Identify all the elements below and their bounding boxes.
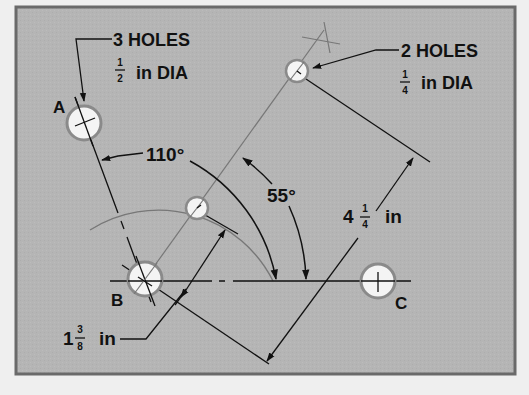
small-holes-size: in DIA xyxy=(421,73,473,93)
point-label-b: B xyxy=(111,291,123,310)
long-dim-whole: 4 xyxy=(343,206,354,227)
angle-label-55: 55° xyxy=(267,185,296,206)
small-holes-count: 2 HOLES xyxy=(401,41,478,61)
long-dim-frac-den: 4 xyxy=(362,219,368,230)
drawing-canvas: 3 HOLES 1 2 in DIA 2 HOLES 1 4 in DIA A … xyxy=(0,0,529,395)
long-dim-unit: in xyxy=(385,206,402,227)
long-dim-frac-num: 1 xyxy=(362,203,368,214)
short-dim-unit: in xyxy=(99,328,116,349)
small-holes-frac-den: 4 xyxy=(402,85,408,96)
point-label-a: A xyxy=(53,98,65,117)
plate xyxy=(16,7,515,374)
short-dim-frac-num: 3 xyxy=(77,324,83,335)
short-dim-frac-den: 8 xyxy=(77,341,83,352)
large-holes-frac-num: 1 xyxy=(117,57,123,68)
large-holes-count: 3 HOLES xyxy=(113,30,190,50)
small-holes-frac-num: 1 xyxy=(402,69,408,80)
large-holes-frac-den: 2 xyxy=(117,73,123,84)
large-holes-size: in DIA xyxy=(136,63,188,83)
point-label-c: C xyxy=(395,294,407,313)
short-dim-whole: 1 xyxy=(63,328,74,349)
angle-label-110: 110° xyxy=(146,144,184,165)
